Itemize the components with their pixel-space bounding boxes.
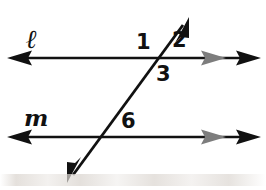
line-l-group	[7, 51, 261, 66]
transversal-bottom-arrowhead	[67, 157, 81, 183]
line-label-m: m	[24, 106, 48, 129]
angle-label-2: 2	[172, 30, 187, 51]
geometry-canvas	[0, 0, 266, 190]
transversal-segment	[73, 25, 183, 175]
line-label-l: ℓ	[26, 26, 37, 52]
angle-label-1: 1	[136, 32, 151, 53]
angle-label-3: 3	[156, 64, 171, 85]
angle-label-6: 6	[121, 111, 136, 132]
geometry-figure: ℓ m 1 2 3 6	[0, 0, 266, 190]
transversal-group	[67, 17, 189, 183]
